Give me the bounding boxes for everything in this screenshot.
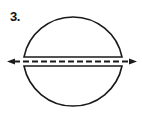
split-circle-diagram — [0, 0, 142, 120]
upper-semicircle — [24, 17, 122, 57]
arrow-left-icon — [7, 59, 15, 65]
arrow-right-icon — [129, 59, 137, 65]
lower-semicircle — [24, 66, 122, 106]
